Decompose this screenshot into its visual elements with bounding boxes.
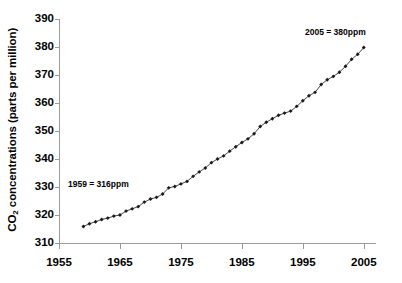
data-point [179, 182, 183, 186]
chart-figure: CO2 concentrations (parts per million) 3… [0, 0, 402, 283]
data-point [148, 197, 152, 201]
data-point [173, 184, 177, 188]
data-point [106, 216, 110, 220]
data-point [130, 207, 134, 211]
data-point [155, 195, 159, 199]
data-point [81, 225, 85, 229]
series-markers [81, 46, 365, 229]
data-point [277, 113, 281, 117]
data-point [270, 117, 274, 121]
data-point [112, 214, 116, 218]
data-point [283, 111, 287, 115]
data-point [88, 222, 92, 226]
annotation-2005: 2005 = 380ppm [305, 28, 366, 37]
data-point [100, 218, 104, 222]
data-point [216, 157, 220, 161]
series-line [83, 48, 363, 227]
annotation-1959: 1959 = 316ppm [68, 180, 129, 189]
data-series-layer [0, 0, 402, 283]
data-point [94, 220, 98, 224]
